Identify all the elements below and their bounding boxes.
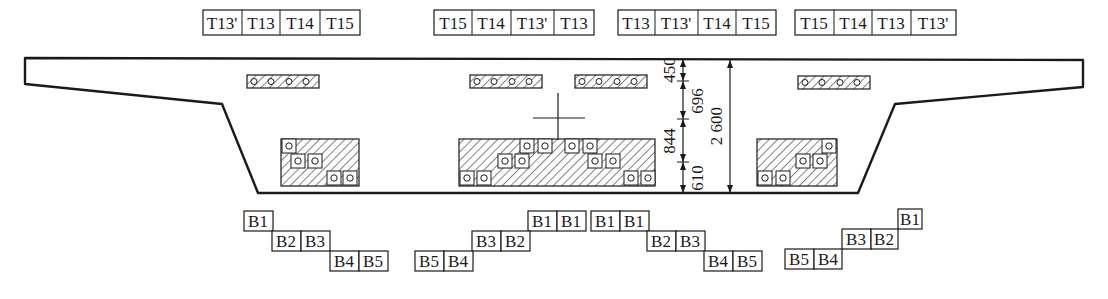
svg-text:T15: T15 <box>742 14 769 33</box>
dim-450: 450 <box>660 57 679 83</box>
dim-696: 696 <box>688 88 707 114</box>
svg-text:T15: T15 <box>800 14 827 33</box>
svg-text:T15: T15 <box>326 14 353 33</box>
svg-text:B4: B4 <box>708 252 728 271</box>
svg-text:T14: T14 <box>839 14 867 33</box>
top-duct-row-2 <box>470 75 542 88</box>
bottom-duct-block-left <box>281 139 359 186</box>
svg-text:B3: B3 <box>846 230 866 249</box>
svg-text:T15: T15 <box>439 14 466 33</box>
bottom-label-group-1: B1 B2 B3 B4 B5 <box>244 211 388 271</box>
top-duct-row-3 <box>575 75 647 88</box>
svg-text:B1: B1 <box>595 212 615 231</box>
svg-text:B5: B5 <box>737 252 757 271</box>
svg-text:B1: B1 <box>532 212 552 231</box>
svg-text:B5: B5 <box>419 252 439 271</box>
svg-text:T13': T13' <box>207 14 237 33</box>
svg-text:T13: T13 <box>247 14 274 33</box>
svg-text:B4: B4 <box>818 250 838 269</box>
svg-text:B2: B2 <box>276 232 296 251</box>
svg-text:B2: B2 <box>874 230 894 249</box>
svg-text:B1: B1 <box>561 212 581 231</box>
svg-text:T13': T13' <box>661 14 691 33</box>
girder-section-drawing: 450 696 844 610 2 600 T13' T13 T14 T15 T… <box>0 0 1108 299</box>
svg-text:T13: T13 <box>877 14 904 33</box>
bottom-duct-block-center <box>459 139 655 186</box>
svg-text:B3: B3 <box>476 232 496 251</box>
svg-text:B2: B2 <box>651 232 671 251</box>
svg-text:B3: B3 <box>680 232 700 251</box>
svg-text:B3: B3 <box>305 232 325 251</box>
bottom-duct-block-right <box>757 139 837 186</box>
dim-844: 844 <box>660 128 679 154</box>
svg-text:B4: B4 <box>334 252 354 271</box>
dim-610: 610 <box>688 165 707 191</box>
svg-text:B1: B1 <box>900 210 920 229</box>
top-label-group-1: T13' T13 T14 T15 <box>203 10 360 35</box>
centroid-cross <box>533 93 585 140</box>
svg-text:B1: B1 <box>624 212 644 231</box>
bottom-label-group-4: B1 B3 B2 B5 B4 <box>785 209 922 269</box>
svg-text:T13: T13 <box>622 14 649 33</box>
dim-total: 2 600 <box>707 107 726 145</box>
svg-text:T13: T13 <box>560 14 587 33</box>
top-duct-row-1 <box>247 75 319 88</box>
top-label-group-3: T13 T13' T14 T15 <box>618 10 776 35</box>
svg-text:B4: B4 <box>448 252 468 271</box>
svg-text:T13': T13' <box>517 14 547 33</box>
top-label-group-4: T15 T14 T13 T13' <box>795 10 956 35</box>
svg-text:B1: B1 <box>248 212 268 231</box>
top-duct-row-4 <box>798 76 870 89</box>
svg-text:B5: B5 <box>789 250 809 269</box>
svg-text:T14: T14 <box>703 14 731 33</box>
svg-text:B2: B2 <box>505 232 525 251</box>
svg-text:T13': T13' <box>918 14 948 33</box>
top-label-group-2: T15 T14 T13' T13 <box>434 10 594 35</box>
bottom-label-group-3: B1 B1 B2 B3 B4 B5 <box>591 211 762 271</box>
svg-text:T14: T14 <box>286 14 314 33</box>
svg-text:T14: T14 <box>477 14 505 33</box>
svg-text:B5: B5 <box>363 252 383 271</box>
bottom-label-group-2: B1 B1 B3 B2 B5 B4 <box>415 211 586 271</box>
